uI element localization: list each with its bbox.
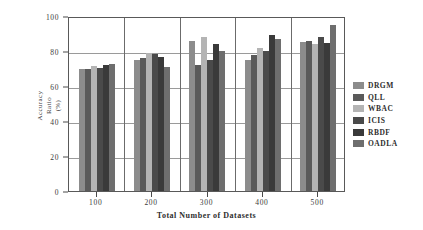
- x-tick-label-200: 200: [144, 198, 157, 207]
- legend-swatch-ICIS: [353, 117, 364, 124]
- x-tick-mark-100: [96, 192, 97, 197]
- bar-OADLA-500: [330, 25, 336, 191]
- x-tick-mark-400: [262, 192, 263, 197]
- legend-item-QLL: QLL: [353, 92, 423, 104]
- bar-group-100: [69, 18, 124, 191]
- bar-chart-figure: 020406080100 AccuracyRatio(%) Total Numb…: [0, 0, 423, 230]
- legend-swatch-DRGM: [353, 82, 364, 89]
- bar-OADLA-300: [219, 51, 225, 191]
- x-tick-mark-300: [207, 192, 208, 197]
- x-tick-label-400: 400: [255, 198, 268, 207]
- x-tick-label-300: 300: [200, 198, 213, 207]
- x-tick-mark-200: [151, 192, 152, 197]
- legend-item-OADLA: OADLA: [353, 138, 423, 150]
- bar-group-500: [291, 18, 346, 191]
- bar-group-400: [235, 18, 290, 191]
- y-tick-label-80: 80: [50, 48, 59, 57]
- bar-OADLA-200: [164, 67, 170, 191]
- x-axis-title: Total Number of Datasets: [68, 211, 345, 220]
- legend-label-OADLA: OADLA: [368, 139, 398, 148]
- legend-label-DRGM: DRGM: [368, 81, 394, 90]
- legend-label-ICIS: ICIS: [368, 116, 385, 125]
- legend-swatch-WBAC: [353, 105, 364, 112]
- chart-legend: DRGMQLLWBACICISRBDFOADLA: [353, 80, 423, 150]
- y-axis-title-line: Ratio: [45, 71, 54, 141]
- y-tick-label-20: 20: [50, 153, 59, 162]
- legend-item-DRGM: DRGM: [353, 80, 423, 92]
- y-tick-label-0: 0: [55, 188, 59, 197]
- y-axis-title-line: Accuracy: [36, 71, 45, 141]
- legend-label-WBAC: WBAC: [368, 104, 393, 113]
- legend-label-QLL: QLL: [368, 93, 385, 102]
- bar-OADLA-100: [109, 64, 115, 191]
- legend-item-WBAC: WBAC: [353, 103, 423, 115]
- x-tick-label-100: 100: [89, 198, 102, 207]
- x-tick-mark-500: [317, 192, 318, 197]
- bar-group-200: [124, 18, 179, 191]
- legend-label-RBDF: RBDF: [368, 128, 390, 137]
- y-axis-title: AccuracyRatio(%): [36, 71, 63, 141]
- y-tick-label-100: 100: [46, 13, 59, 22]
- legend-swatch-OADLA: [353, 140, 364, 147]
- bar-OADLA-400: [275, 39, 281, 191]
- legend-item-ICIS: ICIS: [353, 115, 423, 127]
- legend-item-RBDF: RBDF: [353, 126, 423, 138]
- legend-swatch-RBDF: [353, 129, 364, 136]
- plot-area: [68, 17, 345, 192]
- legend-swatch-QLL: [353, 94, 364, 101]
- bar-group-300: [180, 18, 235, 191]
- y-axis-title-line: (%): [54, 71, 63, 141]
- x-tick-label-500: 500: [311, 198, 324, 207]
